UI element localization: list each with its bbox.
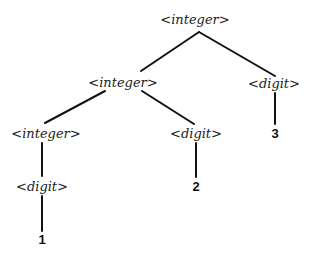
edge-root-to-mid-integer — [141, 32, 199, 71]
edge-mid-integer-to-left-integer — [45, 91, 105, 123]
node-left-integer: <integer> — [11, 126, 80, 141]
leaf-digit-1: 1 — [38, 232, 45, 247]
node-low-digit: <digit> — [16, 179, 68, 194]
node-right-digit: <digit> — [248, 76, 300, 91]
node-mid-integer: <integer> — [88, 75, 157, 90]
node-mid-digit: <digit> — [170, 126, 222, 141]
leaf-digit-3: 3 — [271, 126, 278, 141]
parse-tree-diagram: <integer> <integer> <digit> <integer> <d… — [0, 0, 314, 258]
edge-root-to-right-digit — [199, 32, 275, 76]
leaf-digit-2: 2 — [192, 179, 199, 194]
edge-mid-integer-to-mid-digit — [142, 91, 194, 124]
node-root-integer: <integer> — [160, 12, 229, 27]
